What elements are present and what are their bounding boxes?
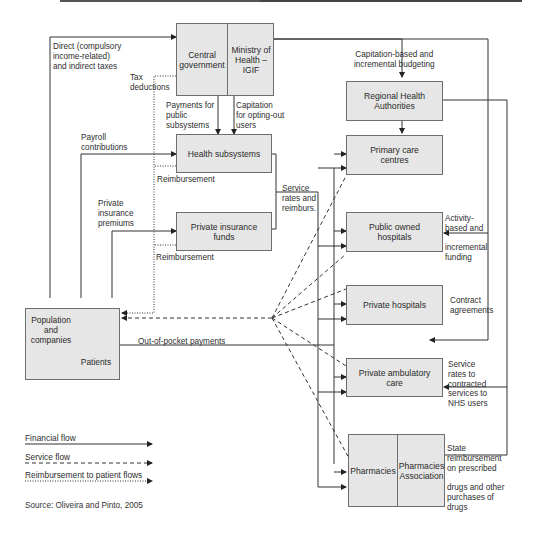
label-payroll: Payroll contributions <box>81 133 127 153</box>
label-tax-deductions: Tax deductions <box>130 73 170 93</box>
label-taxes: Direct (compulsory income-related) and i… <box>53 42 121 71</box>
label-reimbursement-1: Reimbursement <box>157 175 215 185</box>
legend-service-flow: Service flow <box>25 452 70 462</box>
label-out-of-pocket: Out-of-pocket payments <box>138 337 225 347</box>
label-service-rates-reimburs: Service rates and reimburs. <box>282 184 316 213</box>
source-caption: Source: Oliveira and Pinto, 2005 <box>25 501 143 510</box>
node-central-government: Central government <box>177 24 227 95</box>
node-private-hospitals: Private hospitals <box>346 285 443 325</box>
node-pharmacies-group: Pharmacies Pharmacies Association <box>348 434 445 507</box>
node-pharmacies: Pharmacies <box>349 435 397 506</box>
node-primary-care-centres: Primary care centres <box>346 135 443 175</box>
label-reimbursement-2: Reimbursement <box>156 253 214 263</box>
legend-reimbursement-flow: Reimbursement to patient flows <box>25 470 142 480</box>
label-state-reimbursement: State reimbursement on prescribed drugs … <box>447 444 504 513</box>
node-patients: Patients <box>76 357 116 367</box>
node-ministry-of-health: Ministry of Health – IGIF <box>228 24 274 95</box>
label-capitation-budgeting: Capitation-based and incremental budgeti… <box>354 50 435 70</box>
node-public-owned-hospitals: Public owned hospitals <box>346 212 443 252</box>
node-population-and-companies: Population and companies <box>28 315 74 345</box>
node-private-insurance-funds: Private insurance funds <box>176 212 272 251</box>
node-private-ambulatory-care: Private ambulatory care <box>346 358 443 397</box>
label-contract-agreements: Contract agreements <box>450 296 493 316</box>
label-service-rates-contracted: Service rates to contracted services to … <box>448 360 488 409</box>
label-capitation-opting-out: Capitation for opting-out users <box>236 101 284 130</box>
node-central-government-ministry: Central government Ministry of Health – … <box>176 23 274 96</box>
node-regional-health-authorities: Regional Health Authorities <box>346 81 443 121</box>
node-pharmacies-association: Pharmacies Association <box>398 435 445 506</box>
node-population-patients: Population and companies Patients <box>25 308 120 380</box>
node-health-subsystems: Health subsystems <box>176 134 272 173</box>
legend-financial-flow: Financial flow <box>25 433 76 443</box>
label-payments-public-subsystems: Payments for public subsystems <box>166 101 214 130</box>
label-private-premiums: Private insurance premiums <box>98 199 134 228</box>
label-activity-based: Activity- based and incremental funding <box>445 214 487 263</box>
